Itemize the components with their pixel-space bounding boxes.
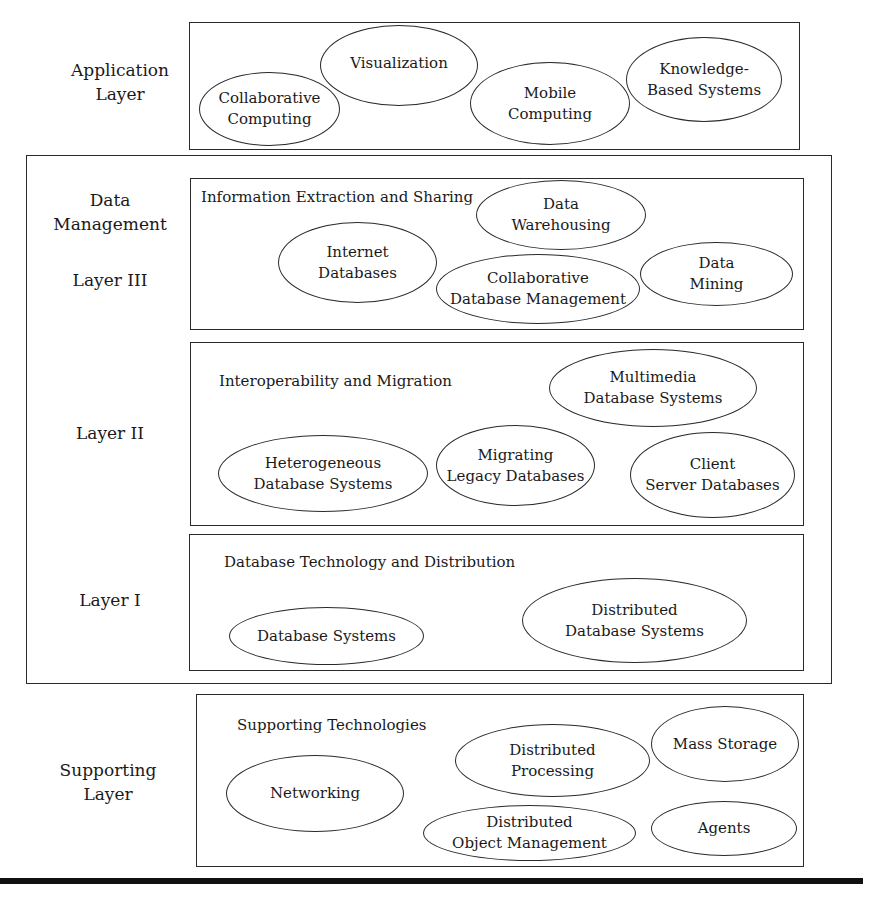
layer-2-label: Layer II <box>30 421 190 445</box>
node-heterogeneous-database-systems: Heterogeneous Database Systems <box>218 435 428 512</box>
node-migrating-legacy-databases: Migrating Legacy Databases <box>436 425 595 506</box>
supporting-layer-title: Supporting Technologies <box>237 716 426 734</box>
layer-3-title: Information Extraction and Sharing <box>201 188 473 206</box>
data-management-label: Data Management <box>30 188 190 236</box>
layer-1-label: Layer I <box>30 588 190 612</box>
node-distributed-object-management: Distributed Object Management <box>423 805 636 861</box>
supporting-layer-label: Supporting Layer <box>28 758 188 806</box>
layer-3-label: Layer III <box>30 268 190 292</box>
node-agents: Agents <box>651 801 797 856</box>
node-collaborative-database-management: Collaborative Database Management <box>436 254 640 324</box>
node-distributed-processing: Distributed Processing <box>455 724 650 797</box>
node-mass-storage: Mass Storage <box>651 706 799 782</box>
bottom-rule-divider <box>0 878 863 884</box>
node-multimedia-database-systems: Multimedia Database Systems <box>549 349 757 427</box>
node-mobile-computing: Mobile Computing <box>470 62 630 145</box>
node-internet-databases: Internet Databases <box>278 222 437 303</box>
node-networking: Networking <box>226 755 404 832</box>
node-data-mining: Data Mining <box>640 242 793 306</box>
node-visualization: Visualization <box>320 25 478 106</box>
node-database-systems: Database Systems <box>229 607 424 665</box>
node-data-warehousing: Data Warehousing <box>476 180 646 250</box>
node-distributed-database-systems: Distributed Database Systems <box>522 578 747 663</box>
node-knowledge-based-systems: Knowledge- Based Systems <box>626 37 782 122</box>
node-client-server-databases: Client Server Databases <box>630 432 795 518</box>
layer-1-title: Database Technology and Distribution <box>224 553 515 571</box>
application-layer-label: Application Layer <box>40 58 200 106</box>
node-collaborative-computing: Collaborative Computing <box>199 72 340 146</box>
layer-2-title: Interoperability and Migration <box>219 372 452 390</box>
